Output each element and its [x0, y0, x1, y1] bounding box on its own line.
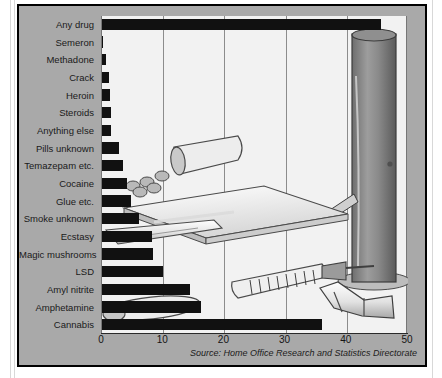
- category-label: Cocaine: [19, 175, 99, 193]
- bar-row: [102, 51, 408, 69]
- bar-row: [102, 299, 408, 317]
- category-label: Heroin: [19, 87, 99, 105]
- category-label: Any drug: [19, 16, 99, 34]
- category-label: Amyl nitrite: [19, 281, 99, 299]
- category-label: Steroids: [19, 104, 99, 122]
- category-label: Cannabis: [19, 316, 99, 334]
- bar: [102, 36, 103, 47]
- bar: [102, 319, 322, 330]
- category-label: Magic mushrooms: [19, 246, 99, 264]
- bar: [102, 142, 119, 153]
- figure-root: Any drugSemeronMethadoneCrackHeroinStero…: [0, 0, 442, 378]
- bar-row: [102, 281, 408, 299]
- page-column-rule-right: [432, 0, 433, 378]
- category-label: Temazepam etc.: [19, 157, 99, 175]
- bar-row: [102, 175, 408, 193]
- bar-row: [102, 210, 408, 228]
- bar-row: [102, 157, 408, 175]
- x-tick-label: 30: [279, 334, 290, 345]
- category-label: Ecstasy: [19, 228, 99, 246]
- x-tick-label: 50: [401, 334, 412, 345]
- category-label: LSD: [19, 263, 99, 281]
- bar-row: [102, 122, 408, 140]
- bar: [102, 19, 381, 30]
- bar: [102, 248, 153, 259]
- category-label: Crack: [19, 69, 99, 87]
- category-label: Anything else: [19, 122, 99, 140]
- category-label: Semeron: [19, 34, 99, 52]
- bar: [102, 231, 152, 242]
- category-axis-labels: Any drugSemeronMethadoneCrackHeroinStero…: [19, 16, 99, 334]
- plot-area: [101, 16, 407, 334]
- category-label: Amphetamine: [19, 299, 99, 317]
- page-column-rule-left-inner: [14, 0, 15, 378]
- bar: [102, 89, 110, 100]
- bar-row: [102, 246, 408, 264]
- bar: [102, 284, 190, 295]
- bar-row: [102, 104, 408, 122]
- x-tick-label: 10: [157, 334, 168, 345]
- x-tick-label: 40: [340, 334, 351, 345]
- bar-series: [102, 16, 408, 334]
- chart-panel: Any drugSemeronMethadoneCrackHeroinStero…: [17, 4, 427, 367]
- bar-row: [102, 316, 408, 334]
- bar-row: [102, 69, 408, 87]
- bar: [102, 107, 111, 118]
- bar: [102, 54, 106, 65]
- bar: [102, 72, 109, 83]
- x-tick-label: 20: [218, 334, 229, 345]
- bar-row: [102, 140, 408, 158]
- bar: [102, 301, 201, 312]
- bar: [102, 178, 127, 189]
- category-label: Glue etc.: [19, 193, 99, 211]
- bar: [102, 213, 139, 224]
- source-note: Source: Home Office Research and Statist…: [190, 348, 417, 358]
- bar-row: [102, 34, 408, 52]
- x-tick-label: 0: [98, 334, 104, 345]
- bar: [102, 266, 163, 277]
- bar: [102, 160, 123, 171]
- category-label: Methadone: [19, 51, 99, 69]
- category-label: Smoke unknown: [19, 210, 99, 228]
- category-label: Pills unknown: [19, 140, 99, 158]
- bar: [102, 125, 111, 136]
- bar-row: [102, 263, 408, 281]
- bar-row: [102, 87, 408, 105]
- bar-row: [102, 193, 408, 211]
- bar: [102, 195, 131, 206]
- page-column-rule-left-outer: [10, 0, 11, 378]
- bar-row: [102, 16, 408, 34]
- bar-row: [102, 228, 408, 246]
